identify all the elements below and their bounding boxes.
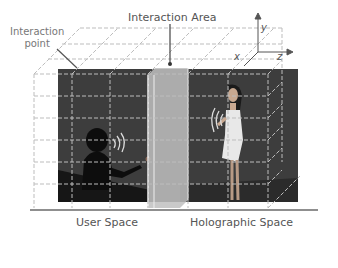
interaction-point-label-line1: Interaction: [10, 26, 64, 38]
interaction-area-panel: [148, 68, 188, 208]
axis-y-label: y: [261, 22, 267, 33]
interaction-point-label-line2: point: [10, 38, 64, 50]
axis-z-label: z: [277, 51, 282, 62]
axis-x-label: x: [234, 51, 240, 62]
interaction-area-label: Interaction Area: [128, 11, 217, 24]
holographic-space-label: Holographic Space: [190, 216, 293, 229]
interaction-point-label: Interaction point: [10, 26, 64, 50]
user-space-label: User Space: [76, 216, 138, 229]
axes-icon: [244, 13, 293, 66]
